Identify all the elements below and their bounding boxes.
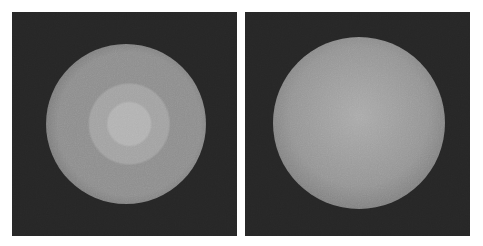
right-noise-overlay bbox=[245, 12, 470, 236]
left-sphere-render bbox=[12, 12, 237, 236]
right-sphere-render bbox=[245, 12, 470, 236]
left-noise-overlay bbox=[12, 12, 237, 236]
